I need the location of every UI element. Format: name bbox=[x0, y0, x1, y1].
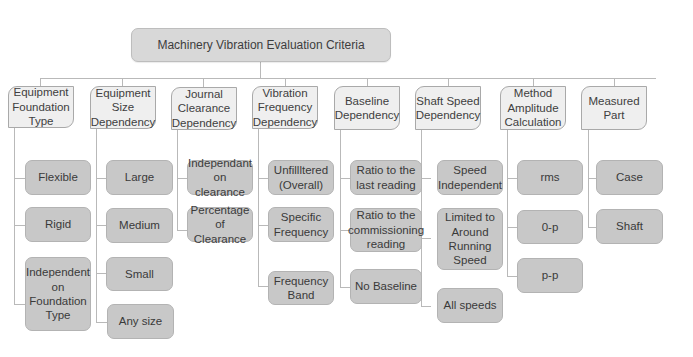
child-stub-connector bbox=[14, 178, 25, 179]
child-stub-connector bbox=[507, 276, 517, 277]
child-spine-connector bbox=[14, 127, 15, 304]
leaf-case: Case bbox=[596, 160, 663, 195]
leaf-p-p: p-p bbox=[517, 258, 583, 293]
child-stub-connector bbox=[14, 304, 25, 305]
root-node-title: Machinery Vibration Evaluation Criteria bbox=[131, 28, 391, 62]
child-stub-connector bbox=[507, 178, 517, 179]
category-baseline-dependency: Baseline Dependency bbox=[334, 86, 400, 130]
leaf-medium: Medium bbox=[106, 208, 173, 243]
child-stub-connector bbox=[258, 225, 268, 226]
category-equipment-size-dependency: Equipment Size Dependency bbox=[90, 86, 156, 129]
category-drop-connector bbox=[533, 78, 534, 86]
leaf-large: Large bbox=[106, 160, 173, 195]
leaf-no-baseline: No Baseline bbox=[350, 269, 422, 304]
root-stem-connector bbox=[260, 62, 261, 78]
leaf-unfiltered-overall: Unfillltered (Overall) bbox=[268, 160, 334, 195]
leaf-independant-on-clearance: Independant on clearance bbox=[187, 160, 253, 195]
child-stub-connector bbox=[507, 227, 517, 228]
child-stub-connector bbox=[258, 286, 268, 287]
category-equipment-foundation-type: Equipment Foundation Type bbox=[8, 86, 74, 128]
leaf-0-p: 0-p bbox=[517, 210, 583, 244]
child-stub-connector bbox=[96, 178, 106, 179]
category-measured-part: Measured Part bbox=[581, 86, 647, 130]
child-stub-connector bbox=[421, 178, 431, 179]
child-stub-connector bbox=[258, 178, 268, 179]
leaf-rigid: Rigid bbox=[25, 207, 91, 242]
child-stub-connector bbox=[340, 178, 350, 179]
child-stub-connector bbox=[96, 273, 106, 274]
leaf-all-speeds: All speeds bbox=[437, 288, 503, 323]
category-method-amplitude-calculation: Method Amplitude Calculation bbox=[500, 86, 566, 130]
leaf-independent-on-foundation-type: Independent on Foundation Type bbox=[25, 257, 91, 331]
leaf-small: Small bbox=[106, 257, 173, 291]
leaf-limited-around-running-speed: Limited to Around Running Speed bbox=[437, 208, 503, 270]
child-stub-connector bbox=[177, 178, 187, 179]
child-spine-connector bbox=[507, 130, 508, 276]
leaf-frequency-band: Frequency Band bbox=[268, 271, 334, 305]
leaf-flexible: Flexible bbox=[25, 160, 91, 195]
category-bus-connector bbox=[40, 78, 656, 79]
child-spine-connector bbox=[177, 130, 178, 230]
leaf-ratio-last-reading: Ratio to the last reading bbox=[350, 160, 422, 195]
child-spine-connector bbox=[258, 128, 259, 286]
child-stub-connector bbox=[340, 287, 350, 288]
category-journal-clearance-dependency: Journal Clearance Dependency bbox=[171, 87, 237, 130]
category-drop-connector bbox=[367, 78, 368, 86]
leaf-percentage-of-clearance: Percentage of Clearance bbox=[187, 207, 253, 242]
category-shaft-speed-dependency: Shaft Speed Dependency bbox=[415, 86, 481, 130]
child-stub-connector bbox=[177, 230, 187, 231]
leaf-specific-frequency: Specific Frequency bbox=[268, 207, 334, 242]
leaf-rms: rms bbox=[517, 160, 583, 195]
leaf-ratio-commissioning-reading: Ratio to the commissioning reading bbox=[350, 208, 422, 252]
child-stub-connector bbox=[96, 225, 106, 226]
child-stub-connector bbox=[421, 306, 431, 307]
leaf-any-size: Any size bbox=[107, 304, 174, 339]
child-spine-connector bbox=[340, 130, 341, 287]
category-drop-connector bbox=[122, 78, 123, 86]
leaf-speed-independent: Speed Independent bbox=[437, 160, 503, 195]
child-stub-connector bbox=[14, 225, 25, 226]
category-drop-connector bbox=[285, 78, 286, 86]
category-drop-connector bbox=[614, 78, 615, 86]
child-stub-connector bbox=[96, 322, 107, 323]
category-drop-connector bbox=[448, 78, 449, 86]
category-drop-connector bbox=[203, 78, 204, 87]
category-vibration-frequency-dependency: Vibration Frequency Dependency bbox=[252, 86, 318, 129]
leaf-shaft: Shaft bbox=[596, 209, 663, 244]
